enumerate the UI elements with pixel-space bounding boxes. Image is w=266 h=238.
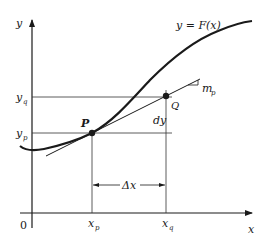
point-p [89,130,95,136]
svg-text:x: x [88,217,95,230]
delta-x-label: Δx [121,179,137,192]
svg-text:y: y [15,127,23,140]
svg-text:x: x [162,217,169,230]
x-axis-label: x [248,223,255,236]
svg-text:p: p [23,134,28,142]
svg-text:p: p [211,89,216,97]
svg-text:q: q [23,98,28,106]
dy-label: dy [153,114,167,127]
svg-text:y: y [15,91,23,104]
svg-text:p: p [95,224,100,232]
point-q-label: Q [171,100,179,111]
origin-label: 0 [20,219,27,232]
curve-f-of-x [20,21,252,150]
point-p-label: P [80,117,90,130]
xp-label: x p [88,217,100,232]
tangent-line [46,79,200,156]
tangent-line-diagram: y x 0 y = F(x) P Q y q y p x p x q dy Δx… [0,0,266,238]
yp-label: y p [15,127,28,142]
yq-label: y q [15,91,28,106]
point-q [163,93,169,99]
y-axis-label: y [15,17,23,30]
curve-label: y = F(x) [175,19,221,32]
slope-label: m p [202,82,216,97]
xq-label: x q [162,217,174,232]
svg-text:q: q [169,224,174,232]
